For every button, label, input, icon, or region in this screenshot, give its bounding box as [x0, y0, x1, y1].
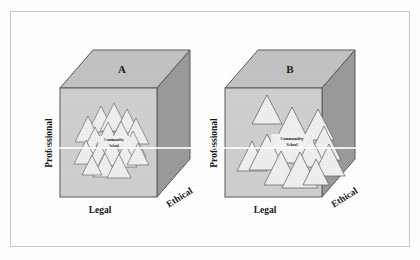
panel-b-core-label-line1: Communality — [281, 137, 304, 141]
panel-b-core-label-line2: School — [286, 143, 298, 147]
panel-b-letter: B — [286, 63, 294, 75]
panel-a-core-label-line1: Communality — [104, 138, 124, 142]
panel-b: B Communality School Professional Legal … — [209, 50, 360, 215]
panel-a-axis-vertical: Professional — [44, 118, 54, 168]
figure-canvas: A Co — [0, 0, 420, 260]
panel-a-axis-depth: Ethical — [164, 185, 194, 209]
panel-b-axis-depth: Ethical — [329, 185, 359, 209]
panel-a-core-label-line2: School — [109, 144, 119, 148]
panel-a: A Co — [44, 50, 195, 215]
panel-a-letter: A — [118, 63, 126, 75]
panel-b-axis-vertical: Professional — [209, 118, 219, 168]
panel-a-axis-horizontal: Legal — [89, 205, 112, 215]
panel-b-axis-horizontal: Legal — [254, 205, 277, 215]
figure-root: A Co — [0, 0, 420, 260]
